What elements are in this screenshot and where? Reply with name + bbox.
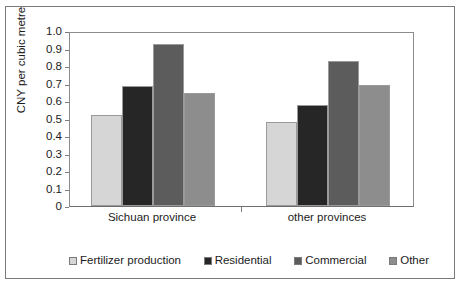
legend-label: Fertilizer production xyxy=(80,255,181,267)
legend-swatch-icon xyxy=(294,257,302,265)
legend-label: Commercial xyxy=(305,255,366,267)
legend-label: Residential xyxy=(215,255,272,267)
y-axis-tick-label: 0.5 xyxy=(46,114,62,126)
bar xyxy=(266,122,297,206)
y-axis-tick-labels: 1.00.90.80.70.60.50.40.30.20.10 xyxy=(26,32,62,207)
y-axis-tick-label: 0.3 xyxy=(46,149,62,161)
y-axis-tick-label: 0.4 xyxy=(46,131,62,143)
legend-label: Other xyxy=(400,255,429,267)
bars-layer xyxy=(70,33,413,206)
bar xyxy=(122,86,153,206)
y-axis-tick-label: 0.9 xyxy=(46,44,62,56)
y-axis-tick-label: 0.1 xyxy=(46,184,62,196)
x-axis-tick-label: other provinces xyxy=(247,211,407,223)
y-axis-tick-label: 0.2 xyxy=(46,166,62,178)
y-axis-tick-label: 0.7 xyxy=(46,79,62,91)
bar xyxy=(153,44,184,206)
chart-figure: CNY per cubic metre 1.00.90.80.70.60.50.… xyxy=(0,0,461,286)
x-axis-tick-labels: Sichuan provinceother provinces xyxy=(69,211,414,227)
legend-swatch-icon xyxy=(204,257,212,265)
bar xyxy=(184,93,215,206)
bar xyxy=(91,115,122,206)
bar xyxy=(297,105,328,207)
plot-area xyxy=(69,32,414,207)
bar xyxy=(328,61,359,206)
chart-legend: Fertilizer productionResidentialCommerci… xyxy=(69,253,429,269)
legend-item[interactable]: Residential xyxy=(204,255,272,267)
y-axis-tick-label: 0.8 xyxy=(46,61,62,73)
legend-swatch-icon xyxy=(389,257,397,265)
y-axis-tick-label: 0.6 xyxy=(46,96,62,108)
legend-item[interactable]: Commercial xyxy=(294,255,366,267)
y-axis-tick-mark xyxy=(65,207,69,208)
legend-item[interactable]: Other xyxy=(389,255,429,267)
x-axis-tick-label: Sichuan province xyxy=(72,211,232,223)
y-axis-tick-label: 1.0 xyxy=(46,26,62,38)
y-axis-tick-label: 0 xyxy=(56,201,62,213)
legend-item[interactable]: Fertilizer production xyxy=(69,255,181,267)
legend-swatch-icon xyxy=(69,257,77,265)
bar xyxy=(359,85,390,206)
